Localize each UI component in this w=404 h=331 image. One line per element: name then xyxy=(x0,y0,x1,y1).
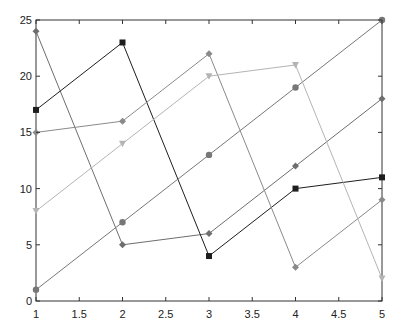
y-tick-label: 0 xyxy=(26,295,32,307)
circle-marker-icon xyxy=(206,152,212,158)
line-chart: 11.522.533.544.55 0510152025 xyxy=(0,0,404,331)
x-tick-label: 3 xyxy=(206,308,212,320)
circle-marker-icon xyxy=(33,287,39,293)
y-tick-label: 25 xyxy=(20,14,32,26)
x-tick-label: 1.5 xyxy=(72,308,87,320)
circle-marker-icon xyxy=(119,219,125,225)
x-tick-label: 1 xyxy=(33,308,39,320)
square-marker-icon xyxy=(293,186,299,192)
x-tick-label: 4 xyxy=(292,308,298,320)
x-tick-label: 3.5 xyxy=(245,308,260,320)
circle-marker-icon xyxy=(292,84,298,90)
square-marker-icon xyxy=(206,253,212,259)
x-tick-label: 2.5 xyxy=(158,308,173,320)
square-marker-icon xyxy=(33,107,39,113)
square-marker-icon xyxy=(120,39,126,45)
y-tick-label: 10 xyxy=(20,183,32,195)
y-tick-label: 20 xyxy=(20,70,32,82)
x-tick-label: 2 xyxy=(119,308,125,320)
y-tick-label: 5 xyxy=(26,239,32,251)
y-tick-label: 15 xyxy=(20,126,32,138)
square-marker-icon xyxy=(379,174,385,180)
x-tick-label: 5 xyxy=(379,308,385,320)
x-tick-label: 4.5 xyxy=(331,308,346,320)
